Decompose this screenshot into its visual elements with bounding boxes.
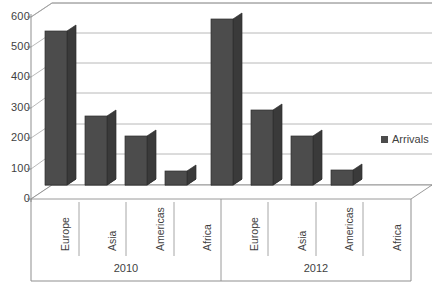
category-label-2010-africa: Africa	[202, 224, 213, 251]
group-label-2010: 2010	[31, 262, 221, 274]
bar-chart: 600 500 400 300 200 100 0 Europe Asia Am…	[0, 0, 441, 286]
chart-legend: Arrivals	[381, 134, 429, 145]
category-label-2012-americas: Americas	[344, 207, 355, 251]
category-label-2012-asia: Asia	[297, 231, 308, 251]
category-axis-labels: Europe Asia Americas Africa Europe Asia …	[0, 0, 441, 286]
group-label-2012: 2012	[221, 262, 411, 274]
legend-swatch-arrivals-icon	[381, 136, 388, 143]
category-label-2012-africa: Africa	[392, 224, 403, 251]
legend-label-arrivals: Arrivals	[392, 134, 429, 145]
category-label-2010-americas: Americas	[155, 207, 166, 251]
category-label-2010-europe: Europe	[60, 217, 71, 251]
category-label-2012-europe: Europe	[249, 217, 260, 251]
category-label-2010-asia: Asia	[107, 231, 118, 251]
